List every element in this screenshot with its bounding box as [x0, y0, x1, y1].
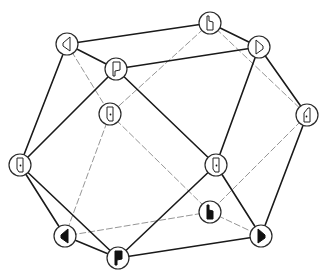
visible-edge-V3-V4	[116, 47, 259, 69]
dot-icon	[110, 114, 112, 116]
visible-edge-V4-V6	[259, 47, 307, 115]
visible-edge-V3-V8	[116, 69, 216, 165]
vertex-node-V12	[107, 247, 129, 269]
cuboctahedron-diagram	[0, 0, 326, 276]
vertex-nodes-group	[9, 12, 318, 269]
hidden-edges-group	[65, 23, 307, 236]
visible-edge-V6-V11	[261, 115, 307, 236]
vertex-node-V4	[248, 36, 270, 58]
hidden-edge-V5-V10	[65, 114, 110, 236]
diagram-canvas	[0, 0, 326, 276]
vertex-node-V10	[54, 225, 76, 247]
vertex-node-V7	[9, 154, 31, 176]
hidden-edge-V5-V9	[110, 114, 210, 212]
visible-edge-V12-V11	[118, 236, 261, 258]
vertex-node-V5	[99, 103, 121, 125]
dot-icon	[20, 165, 22, 167]
vertex-node-V11	[250, 225, 272, 247]
dot-icon	[306, 116, 308, 118]
vertex-node-V8	[205, 154, 227, 176]
vertex-node-V3	[105, 58, 127, 80]
visible-edge-V1-V2	[67, 23, 210, 44]
hidden-edge-V9-V10	[65, 212, 210, 236]
vertex-node-V2	[199, 12, 221, 34]
visible-edge-V4-V8	[216, 47, 259, 165]
dot-icon	[216, 165, 218, 167]
vertex-node-V9	[199, 201, 221, 223]
vertex-node-V6	[296, 104, 318, 126]
visible-edge-V1-V7	[20, 44, 67, 165]
vertex-node-V1	[56, 33, 78, 55]
visible-edges-group	[20, 23, 307, 258]
